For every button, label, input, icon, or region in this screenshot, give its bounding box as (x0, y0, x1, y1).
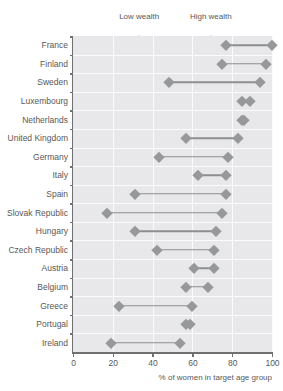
y-axis-tick (70, 296, 73, 298)
data-point-low-wealth (129, 226, 140, 237)
x-axis-tick-label: 40 (148, 358, 157, 368)
category-label-spain: Spain (46, 189, 68, 198)
x-axis-tick (73, 354, 75, 357)
dumbbell-connector (135, 193, 227, 195)
y-axis-tick (70, 73, 73, 75)
x-axis (72, 352, 273, 354)
category-label-france: France (42, 41, 68, 50)
chart-row: Spain (73, 185, 272, 204)
y-axis-tick (70, 129, 73, 131)
dumbbell-connector (169, 82, 261, 84)
y-axis-tick (70, 92, 73, 94)
chart-row: Austria (73, 259, 272, 278)
data-point-low-wealth (217, 59, 228, 70)
y-axis-tick (70, 240, 73, 242)
data-point-low-wealth (102, 207, 113, 218)
category-label-germany: Germany (33, 152, 68, 161)
category-label-hungary: Hungary (36, 227, 68, 236)
data-point-high-wealth (211, 226, 222, 237)
y-axis-tick (70, 148, 73, 150)
y-axis-tick (70, 222, 73, 224)
gridline-vertical (272, 36, 273, 352)
x-axis-tick-label: 20 (109, 358, 118, 368)
chart-row: Belgium (73, 278, 272, 297)
chart-row: Czech Republic (73, 240, 272, 259)
chart-row: France (73, 36, 272, 55)
x-axis-tick (152, 354, 154, 357)
plot-area: FranceFinlandSwedenLuxembourgNetherlands… (72, 36, 272, 352)
chart-row: Finland (73, 55, 272, 74)
chart-row: Ireland (73, 333, 272, 352)
chart-legend: Low wealth High wealth (0, 12, 283, 36)
data-point-high-wealth (223, 151, 234, 162)
legend-label-low-wealth: Low wealth (119, 12, 159, 21)
data-point-low-wealth (153, 151, 164, 162)
dumbbell-chart: Low wealth High wealth FranceFinlandSwed… (0, 0, 283, 391)
category-label-finland: Finland (40, 59, 68, 68)
x-axis-label: % of women in target age group (159, 373, 272, 382)
chart-row: Portugal (73, 315, 272, 334)
data-point-high-wealth (175, 337, 186, 348)
data-point-low-wealth (181, 282, 192, 293)
x-axis-tick-label: 80 (228, 358, 237, 368)
data-point-high-wealth (221, 170, 232, 181)
data-point-high-wealth (221, 189, 232, 200)
y-axis-tick (70, 203, 73, 205)
x-axis-tick (272, 354, 274, 357)
category-label-netherlands: Netherlands (22, 115, 68, 124)
data-point-high-wealth (245, 96, 256, 107)
category-label-austria: Austria (42, 264, 68, 273)
chart-row: Greece (73, 296, 272, 315)
plot-inner: FranceFinlandSwedenLuxembourgNetherlands… (73, 36, 272, 352)
data-point-high-wealth (255, 77, 266, 88)
dumbbell-connector (159, 156, 229, 158)
data-point-low-wealth (163, 77, 174, 88)
dumbbell-connector (135, 230, 217, 232)
chart-row: Netherlands (73, 110, 272, 129)
x-axis-tick-label: 60 (188, 358, 197, 368)
category-label-belgium: Belgium (37, 282, 68, 291)
data-point-high-wealth (203, 282, 214, 293)
y-axis-tick (70, 185, 73, 187)
chart-row: Hungary (73, 222, 272, 241)
category-label-slovak-republic: Slovak Republic (7, 208, 68, 217)
data-point-low-wealth (221, 40, 232, 51)
data-point-low-wealth (189, 263, 200, 274)
y-axis-tick (70, 110, 73, 112)
chart-row: Sweden (73, 73, 272, 92)
dumbbell-connector (157, 249, 215, 251)
chart-row: Germany (73, 148, 272, 167)
y-axis-tick (70, 259, 73, 261)
dumbbell-connector (107, 212, 222, 214)
dumbbell-connector (119, 305, 193, 307)
y-axis-tick (70, 333, 73, 335)
category-label-united-kingdom: United Kingdom (8, 134, 68, 143)
category-label-portugal: Portugal (36, 320, 68, 329)
category-label-luxembourg: Luxembourg (21, 97, 68, 106)
legend-label-high-wealth: High wealth (190, 12, 232, 21)
data-point-high-wealth (209, 244, 220, 255)
x-axis-tick (232, 354, 234, 357)
data-point-high-wealth (217, 207, 228, 218)
data-point-low-wealth (113, 300, 124, 311)
data-point-low-wealth (193, 170, 204, 181)
y-axis-tick (70, 36, 73, 38)
chart-row: Italy (73, 166, 272, 185)
data-point-high-wealth (187, 300, 198, 311)
data-point-high-wealth (209, 263, 220, 274)
data-point-low-wealth (151, 244, 162, 255)
x-axis-tick-label: 100 (265, 358, 279, 368)
category-label-sweden: Sweden (37, 78, 68, 87)
chart-row: United Kingdom (73, 129, 272, 148)
y-axis-tick (70, 55, 73, 57)
data-point-low-wealth (105, 337, 116, 348)
x-axis-tick (192, 354, 194, 357)
x-axis-tick-label: 0 (71, 358, 76, 368)
y-axis-tick (70, 166, 73, 168)
category-label-czech-republic: Czech Republic (8, 245, 68, 254)
category-label-greece: Greece (40, 301, 68, 310)
data-point-low-wealth (129, 189, 140, 200)
dumbbell-connector (111, 342, 181, 344)
data-point-high-wealth (267, 40, 278, 51)
category-label-italy: Italy (52, 171, 68, 180)
